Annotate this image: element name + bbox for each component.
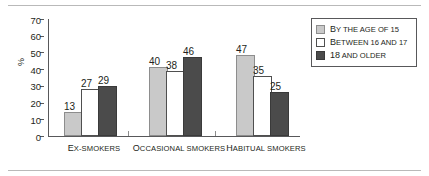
plot-area: 0 10 20 30 40 50 60 70 13 [48, 19, 300, 137]
y-tick-40: 40 [44, 69, 48, 70]
top-divider-rule [8, 5, 421, 6]
legend-label: BETWEEN 16 AND 17 [330, 38, 407, 47]
bar-value-label: 25 [270, 82, 281, 92]
legend-label: 18 AND OLDER [330, 51, 386, 60]
y-tick-label-0: 0 [36, 131, 41, 142]
bar-value-label: 38 [166, 61, 177, 71]
x-axis-label-ex-smokers: EX-SMOKERS [54, 143, 134, 153]
legend-swatch-icon [316, 51, 325, 60]
group-separator-2 [215, 131, 216, 136]
y-tick-30: 30 [44, 86, 48, 87]
bar-value-label: 40 [149, 57, 160, 67]
legend-rest: Y THE AGE OF 15 [336, 25, 399, 34]
x-axis-label-habitual-smokers: HABITUAL SMOKERS [220, 143, 312, 153]
y-tick-10: 10 [44, 119, 48, 120]
bar-value-label: 29 [98, 76, 109, 86]
y-tick-label-70: 70 [30, 14, 41, 25]
bottom-divider-rule [8, 170, 421, 171]
bar-chart-figure: % 0 10 20 30 40 50 60 70 [0, 0, 429, 176]
bar-value-label: 35 [253, 66, 264, 76]
y-tick-20: 20 [44, 103, 48, 104]
bar-value-label: 47 [236, 45, 247, 55]
cat-rest: X-SMOKERS [74, 144, 120, 153]
cat-head: O [133, 143, 140, 153]
bar-value-label: 27 [81, 79, 92, 89]
legend-swatch-icon [316, 25, 325, 34]
legend-rest: ETWEEN 16 AND 17 [336, 38, 407, 47]
bar-value-label: 46 [183, 47, 194, 57]
cat-rest: CCASIONAL SMOKERS [140, 144, 225, 153]
y-tick-label-10: 10 [30, 114, 41, 125]
y-tick-label-40: 40 [30, 64, 41, 75]
legend-label: BY THE AGE OF 15 [330, 25, 399, 34]
legend-item-by-the-age-of-15[interactable]: BY THE AGE OF 15 [316, 23, 411, 36]
bar-value-label: 13 [64, 102, 75, 112]
bar-group-habitual-smokers: 47 35 25 [236, 19, 296, 136]
legend-item-between-16-and-17[interactable]: BETWEEN 16 AND 17 [316, 36, 411, 49]
y-tick-70: 70 [44, 19, 48, 20]
y-tick-label-20: 20 [30, 98, 41, 109]
y-tick-0: 0 [44, 136, 48, 137]
bar-group-occasional-smokers: 40 38 46 [149, 19, 209, 136]
legend-swatch-icon [316, 38, 325, 47]
cat-head: H [226, 143, 233, 153]
bar-occasional-smokers-18-and-older[interactable]: 46 [183, 57, 202, 136]
bar-habitual-smokers-18-and-older[interactable]: 25 [270, 92, 289, 136]
y-axis-title: % [16, 58, 26, 66]
x-axis-label-occasional-smokers: OCCASIONAL SMOKERS [131, 143, 227, 153]
legend-rest: AND OLDER [340, 51, 386, 60]
legend-head: 18 [330, 50, 340, 60]
bar-ex-smokers-18-and-older[interactable]: 29 [98, 86, 117, 137]
y-tick-50: 50 [44, 52, 48, 53]
y-tick-label-50: 50 [30, 47, 41, 58]
group-separator-1 [128, 131, 129, 136]
y-tick-label-30: 30 [30, 81, 41, 92]
chart-legend: BY THE AGE OF 15 BETWEEN 16 AND 17 18 AN… [311, 18, 417, 67]
cat-rest: ABITUAL SMOKERS [233, 144, 306, 153]
bar-group-ex-smokers: 13 27 29 [64, 19, 124, 136]
legend-item-18-and-older[interactable]: 18 AND OLDER [316, 49, 411, 62]
y-tick-label-60: 60 [30, 31, 41, 42]
x-axis-line [48, 136, 300, 137]
y-axis-line [48, 19, 49, 137]
y-tick-60: 60 [44, 36, 48, 37]
